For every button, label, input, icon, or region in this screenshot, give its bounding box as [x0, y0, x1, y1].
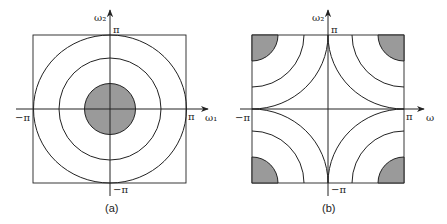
y-axis-label: ω₂ — [94, 12, 106, 23]
caption-a: (a) — [105, 202, 118, 214]
panel-a: ω₂ π −π π ω₁ −π (a) — [15, 10, 217, 214]
right-tick-label: π — [188, 111, 195, 122]
corner-shade-tl — [252, 35, 278, 61]
corner-shade-br — [378, 157, 404, 183]
corner-shade-tr — [378, 35, 404, 61]
corner-shade-bl — [252, 157, 278, 183]
y-axis-label: ω₂ — [312, 12, 324, 23]
x-axis-label: ω₁ — [205, 112, 217, 123]
caption-b: (b) — [322, 202, 335, 214]
x-axis-label: ω — [426, 112, 434, 123]
bottom-tick-label: −π — [331, 184, 346, 195]
left-tick-label: −π — [15, 112, 30, 123]
panel-b: ω₂ π −π π ω −π (b) — [235, 10, 434, 214]
top-tick-label: π — [113, 24, 120, 35]
top-tick-label: π — [331, 24, 338, 35]
figure: ω₂ π −π π ω₁ −π (a) ω₂ π −π π ω −π (b) — [0, 0, 447, 224]
bottom-tick-label: −π — [113, 184, 128, 195]
left-tick-label: −π — [235, 112, 250, 123]
right-tick-label: π — [406, 111, 413, 122]
